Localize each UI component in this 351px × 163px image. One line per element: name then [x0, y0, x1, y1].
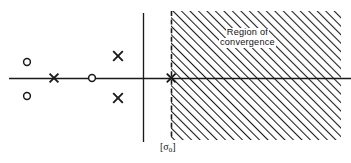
region-of-convergence-label: Region of convergence	[219, 28, 276, 48]
zero-marker	[24, 59, 31, 66]
pole-zero-roc-figure: Region of convergence [σ0]	[0, 0, 351, 163]
sigma-symbol: σ	[163, 141, 168, 152]
pole-marker	[113, 93, 123, 103]
roc-label-line-2: convergence	[219, 38, 276, 48]
abscissa-of-convergence-label: [σ0]	[160, 141, 176, 152]
pole-marker	[113, 51, 123, 61]
sigma-subscript: 0	[169, 146, 173, 154]
bracket-close: ]	[172, 141, 175, 152]
zero-marker	[24, 93, 31, 100]
zero-marker	[89, 75, 96, 82]
pole-markers	[50, 51, 176, 103]
complex-plane-diagram	[0, 0, 351, 163]
